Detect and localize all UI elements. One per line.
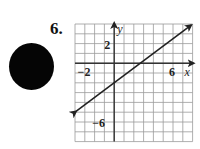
x-axis-label: x [184, 65, 191, 79]
coordinate-graph: y x −2 6 2 −6 [0, 0, 200, 149]
x-tick-label-neg2: −2 [78, 65, 91, 79]
y-tick-label-neg6: −6 [92, 116, 105, 130]
y-axis-label: y [116, 22, 123, 36]
x-tick-label-6: 6 [169, 65, 175, 79]
y-tick-label-2: 2 [104, 38, 110, 52]
